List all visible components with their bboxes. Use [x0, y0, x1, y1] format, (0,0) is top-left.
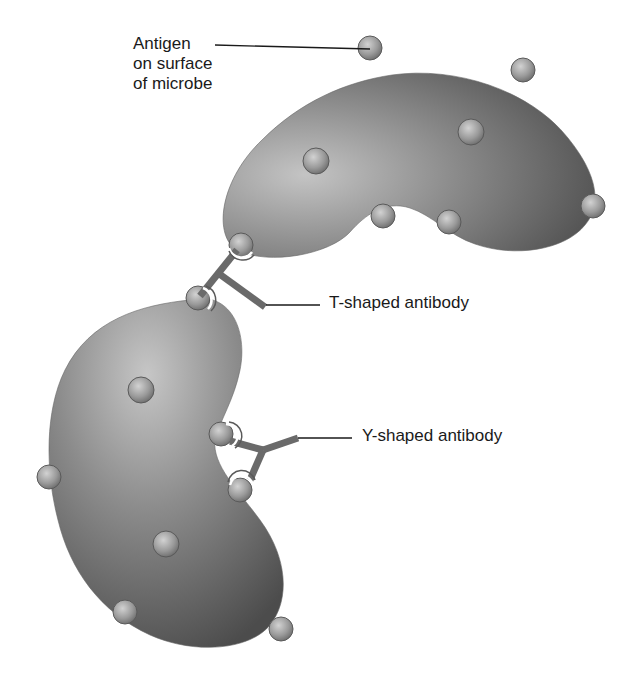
antigen-icon: [128, 377, 154, 403]
antigen-icon: [153, 531, 179, 557]
y-shaped-antibody: [226, 422, 298, 485]
antigen-icon: [581, 194, 605, 218]
antigen-label-line-1: Antigen: [133, 34, 212, 54]
antigen-icon: [437, 210, 461, 234]
antigen-label-line-3: of microbe: [133, 74, 212, 94]
antigen-icon: [511, 58, 535, 82]
antigen-icon: [458, 119, 484, 145]
antigen-leader-line: [215, 45, 370, 49]
antigen-icon: [37, 465, 61, 489]
upper-microbe: [223, 36, 605, 257]
t-antibody-label: T-shaped antibody: [329, 293, 469, 313]
y-antibody-label: Y-shaped antibody: [362, 426, 502, 446]
antigen-label: Antigen on surface of microbe: [133, 34, 212, 94]
antigen-label-line-2: on surface: [133, 54, 212, 74]
upper-microbe-body: [223, 73, 595, 257]
antigen-icon: [358, 36, 382, 60]
antibody-diagram: [0, 0, 635, 677]
antigen-icon: [371, 204, 395, 228]
antigen-icon: [269, 617, 293, 641]
antigen-icon: [303, 148, 329, 174]
antigen-icon: [113, 600, 137, 624]
